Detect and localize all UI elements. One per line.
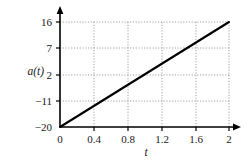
y-tick-label-7: 7 xyxy=(24,43,52,54)
x-tick-label-0.8: 0.8 xyxy=(113,134,143,145)
y-axis-title: a(t) xyxy=(8,66,44,78)
x-axis-arrowhead xyxy=(233,124,241,131)
x-tick-label-1.6: 1.6 xyxy=(181,134,211,145)
x-tick-label-1.2: 1.2 xyxy=(147,134,177,145)
y-axis-arrowhead xyxy=(57,6,64,14)
chart-figure: 16 7 2 −11 −20 0 0.4 0.8 1.2 1.6 2 a(t) … xyxy=(0,0,246,163)
y-tick-label--20: −20 xyxy=(20,122,52,133)
x-tick-label-0.4: 0.4 xyxy=(79,134,109,145)
y-tick-label-16: 16 xyxy=(24,17,52,28)
vertical-gridlines xyxy=(94,22,229,127)
line-series-a xyxy=(60,22,229,127)
horizontal-gridlines xyxy=(60,22,229,101)
x-tick-label-0: 0 xyxy=(45,134,75,145)
x-axis-title: t xyxy=(136,147,156,159)
x-tick-label-2: 2 xyxy=(214,134,244,145)
y-tick-label--11: −11 xyxy=(20,96,52,107)
data-series-a-of-t xyxy=(60,22,229,127)
